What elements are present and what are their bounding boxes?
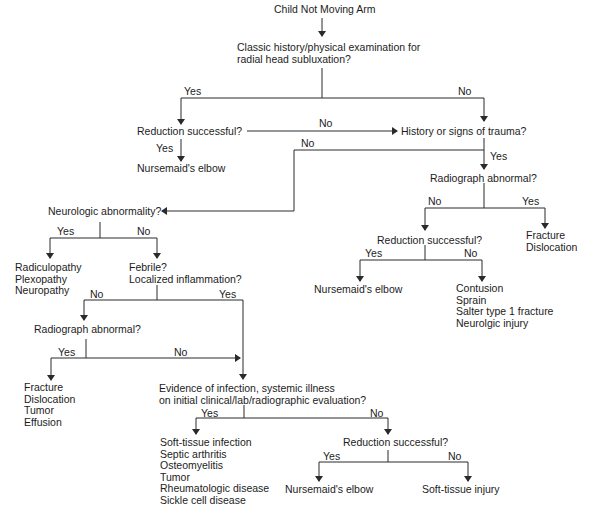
node-classic-line-2: radial head subluxation?: [237, 54, 420, 66]
label-trauma-no: No: [301, 137, 314, 149]
label-red2-no: No: [464, 247, 477, 259]
node-classic-line-1: Classic history/physical examination for: [237, 42, 420, 54]
node-fracture-1: Fracture Dislocation: [526, 230, 577, 253]
node-fracture-2: Fracture Dislocation Tumor Effusion: [24, 382, 75, 428]
node-start: Child Not Moving Arm: [274, 4, 376, 16]
label-red1-yes: Yes: [156, 142, 173, 154]
dx-line: Contusion: [456, 283, 553, 295]
label-neuro-yes: Yes: [57, 225, 74, 237]
dx-line: Neurolgic injury: [456, 318, 553, 330]
label-rad2-no: No: [174, 346, 187, 358]
node-neuro-dx: Radiculopathy Plexopathy Neuropathy: [15, 262, 82, 297]
dx-line: Neuropathy: [15, 285, 82, 297]
dx-line: Dislocation: [526, 242, 577, 254]
node-infection-question: Evidence of infection, systemic illness …: [159, 383, 366, 406]
node-trauma-question: History or signs of trauma?: [401, 126, 526, 138]
node-febrile-question: Febrile? Localized inflammation?: [129, 262, 242, 285]
label-classic-yes: Yes: [184, 85, 201, 97]
node-infection-dx: Soft-tissue infection Septic arthritis O…: [160, 437, 269, 507]
flowchart-connectors: [0, 0, 589, 515]
dx-line: Radiculopathy: [15, 262, 82, 274]
node-nursemaid-1: Nursemaid's elbow: [137, 163, 225, 175]
node-reduction-2: Reduction successful?: [377, 235, 482, 247]
label-rad2-yes: Yes: [58, 346, 75, 358]
node-reduction-3: Reduction successful?: [343, 437, 448, 449]
label-classic-no: No: [458, 85, 471, 97]
label-red2-yes: Yes: [365, 247, 382, 259]
node-febrile-line-1: Febrile?: [129, 262, 242, 274]
label-inf-no: No: [370, 407, 383, 419]
label-febrile-yes: Yes: [219, 288, 236, 300]
label-rad1-no: No: [428, 195, 441, 207]
dx-line: Soft-tissue infection: [160, 437, 269, 449]
node-nursemaid-2: Nursemaid's elbow: [314, 284, 402, 296]
dx-line: Fracture: [526, 230, 577, 242]
dx-line: Sickle cell disease: [160, 495, 269, 507]
node-nursemaid-3: Nursemaid's elbow: [285, 484, 373, 496]
label-red1-no: No: [319, 117, 332, 129]
label-neuro-no: No: [137, 225, 150, 237]
node-classic-question: Classic history/physical examination for…: [237, 42, 420, 65]
label-red3-yes: Yes: [323, 450, 340, 462]
node-febrile-line-2: Localized inflammation?: [129, 274, 242, 286]
label-rad1-yes: Yes: [522, 195, 539, 207]
label-inf-yes: Yes: [201, 407, 218, 419]
node-radiograph-1: Radiograph abnormal?: [430, 173, 537, 185]
node-soft-tissue-injury: Soft-tissue injury: [422, 484, 500, 496]
node-neuro-question: Neurologic abnormality?: [48, 206, 161, 218]
node-reduction-1: Reduction successful?: [137, 126, 242, 138]
dx-line: Fracture: [24, 382, 75, 394]
label-trauma-yes: Yes: [490, 150, 507, 162]
node-infection-line-1: Evidence of infection, systemic illness: [159, 383, 366, 395]
label-febrile-no: No: [90, 288, 103, 300]
label-red3-no: No: [448, 450, 461, 462]
dx-line: Effusion: [24, 417, 75, 429]
node-infection-line-2: on initial clinical/lab/radiographic eva…: [159, 395, 366, 407]
node-contusion-list: Contusion Sprain Salter type 1 fracture …: [456, 283, 553, 329]
node-radiograph-2: Radiograph abnormal?: [34, 324, 141, 336]
